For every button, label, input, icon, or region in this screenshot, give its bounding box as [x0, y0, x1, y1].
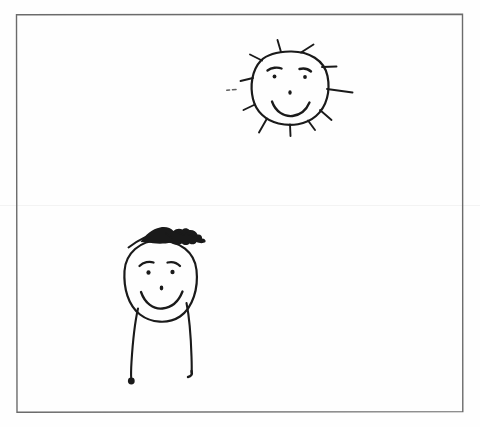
sun-left-eyebrow: [268, 68, 282, 71]
sun-drawing: [227, 40, 353, 136]
sun-ray-6: [327, 89, 353, 93]
sun-rays: [227, 40, 353, 136]
person-left-leg: [131, 309, 138, 379]
drawing-canvas: A hand-drawn picture inside a thin recta…: [0, 0, 480, 427]
person-nose: [160, 286, 164, 291]
person-right-foot: [188, 371, 192, 377]
sun-ray-11: [308, 121, 315, 131]
person-hair-scribble: [141, 227, 206, 245]
sun-body-outline: [252, 51, 329, 124]
person-right-eye: [170, 270, 174, 275]
sun-ray-3: [250, 55, 262, 61]
person-left-foot: [128, 378, 135, 385]
sun-ray-10: [290, 125, 291, 137]
hand-drawing: [0, 0, 480, 427]
person-left-eye: [146, 270, 150, 275]
sun-left-eye: [273, 75, 277, 79]
sun-ray-9: [259, 119, 267, 133]
sun-nose: [288, 90, 291, 94]
sun-ray-7: [244, 105, 256, 111]
sun-ray-2: [301, 45, 314, 53]
person-left-eyebrow: [140, 262, 154, 266]
drawing-frame: [17, 14, 463, 412]
sun-mouth: [272, 102, 310, 117]
sun-right-eye: [303, 75, 307, 79]
person-mouth: [141, 292, 183, 309]
sun-ray-1: [278, 40, 282, 52]
sun-right-eyebrow: [300, 69, 312, 72]
person-right-eyebrow: [168, 262, 181, 266]
person-right-leg: [187, 303, 192, 373]
sun-ray-fragment: [227, 90, 236, 91]
person-drawing: [124, 227, 205, 384]
